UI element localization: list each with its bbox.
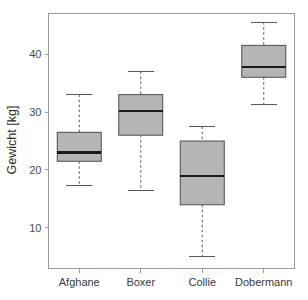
x-category-label-collie: Collie: [188, 276, 216, 288]
box-iqr: [242, 45, 286, 77]
box-iqr: [57, 132, 101, 161]
boxplot-chart: 10203040 AfghaneBoxerCollieDobermann Gew…: [0, 0, 308, 300]
plot-svg: 10203040 AfghaneBoxerCollieDobermann Gew…: [0, 0, 308, 300]
x-category-label-boxer: Boxer: [126, 276, 155, 288]
y-axis: 10203040: [29, 48, 48, 234]
y-tick-label: 30: [29, 106, 41, 118]
box-series: [57, 22, 286, 257]
box-collie: [180, 127, 224, 257]
y-tick-label: 10: [29, 222, 41, 234]
x-category-label-dobermann: Dobermann: [235, 276, 292, 288]
box-boxer: [119, 71, 163, 190]
x-category-label-afghane: Afghane: [59, 276, 100, 288]
x-axis: AfghaneBoxerCollieDobermann: [59, 269, 293, 288]
box-afghane: [57, 95, 101, 186]
y-tick-label: 20: [29, 164, 41, 176]
box-iqr: [119, 95, 163, 136]
y-tick-label: 40: [29, 48, 41, 60]
box-iqr: [180, 141, 224, 205]
y-axis-title: Gewicht [kg]: [5, 106, 19, 175]
box-dobermann: [242, 22, 286, 104]
